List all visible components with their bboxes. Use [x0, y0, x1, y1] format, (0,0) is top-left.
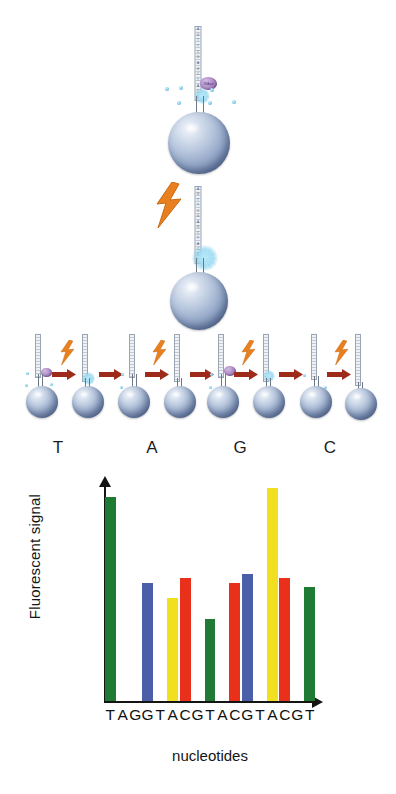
light-flash-bolt — [155, 182, 183, 228]
sequencing-bead — [345, 388, 377, 420]
fluor-dot — [121, 373, 124, 376]
fluor-dot — [165, 87, 169, 91]
bar-g-3 — [142, 583, 153, 701]
fluor-dot — [209, 386, 212, 389]
fluor-dot — [177, 101, 181, 105]
process-arrow — [234, 369, 258, 380]
bar-g-11 — [242, 574, 253, 701]
fluor-dot — [26, 372, 29, 375]
process-arrow — [52, 369, 76, 380]
process-arrow — [145, 369, 169, 380]
cycle-label-t: T — [48, 438, 68, 458]
fluor-dot — [50, 383, 53, 386]
cycle-label-a: A — [142, 438, 162, 458]
bar-a-5 — [167, 598, 178, 701]
fluor-dot — [232, 100, 236, 104]
x-tick-4: T — [154, 704, 166, 726]
x-tick-3: G — [141, 704, 153, 726]
spark-rays — [263, 370, 275, 382]
pyrogram-chart: Fluorescent signal TAGGTACGTACGTACGT nuc… — [0, 470, 396, 794]
x-tick-14: C — [279, 704, 291, 726]
fluor-dot — [210, 88, 214, 92]
x-tick-6: C — [179, 704, 191, 726]
polymerase-label: DNA pol — [204, 82, 214, 85]
fluorescent-burst — [263, 370, 275, 382]
cycle-label-g: G — [230, 438, 250, 458]
sequencing-bead — [207, 386, 239, 418]
light-flash-bolt — [60, 340, 75, 365]
fluor-dot — [179, 86, 183, 90]
process-arrow — [99, 369, 123, 380]
x-tick-15: G — [291, 704, 303, 726]
x-tick-11: G — [241, 704, 253, 726]
bar-t-16 — [304, 587, 315, 701]
fluor-dot — [210, 373, 213, 376]
fluor-dot — [303, 374, 306, 377]
x-tick-7: G — [191, 704, 203, 726]
y-axis-label: Fluorescent signal — [26, 482, 43, 632]
bar-a-13 — [267, 488, 278, 701]
sequencing-bead-mid — [170, 272, 228, 330]
process-arrow — [327, 369, 351, 380]
x-tick-13: A — [266, 704, 278, 726]
figure-canvas: AGTTCG AGCTACA DNA pol — [0, 0, 396, 794]
dna-strand-after — [355, 334, 361, 386]
process-arrow — [279, 369, 303, 380]
bar-t-0 — [105, 497, 116, 701]
x-tick-16: T — [304, 704, 316, 726]
sequencing-bead-top — [168, 112, 230, 174]
sequencing-bead — [164, 386, 196, 418]
x-tick-10: C — [229, 704, 241, 726]
x-tick-2: G — [129, 704, 141, 726]
sequencing-bead — [300, 386, 332, 418]
bar-t-8 — [205, 619, 216, 701]
x-tick-9: A — [216, 704, 228, 726]
dna-strand-after — [174, 334, 180, 382]
sequencing-bead — [72, 386, 104, 418]
sequencing-bead — [118, 386, 150, 418]
sequencing-bead — [26, 386, 58, 418]
light-flash-bolt — [241, 340, 256, 365]
cycle-label-c: C — [320, 438, 340, 458]
fluor-dot — [120, 386, 123, 389]
bar-c-6 — [180, 578, 191, 701]
dna-strand-before — [129, 334, 135, 378]
x-axis-line — [104, 701, 316, 703]
x-tick-8: T — [204, 704, 216, 726]
x-tick-5: A — [166, 704, 178, 726]
x-tick-0: T — [104, 704, 116, 726]
x-axis-tick-labels: TAGGTACGTACGTACGT — [104, 704, 316, 726]
x-axis-label: nucleotides — [104, 747, 316, 764]
bar-series — [104, 486, 316, 701]
light-flash-bolt — [152, 340, 167, 365]
dna-strand-before — [311, 334, 317, 380]
bar-c-14 — [279, 578, 290, 701]
x-tick-1: A — [116, 704, 128, 726]
bar-c-10 — [229, 583, 240, 701]
fluor-dot — [25, 384, 28, 387]
sequencing-bead — [253, 386, 285, 418]
light-flash-bolt — [334, 340, 349, 365]
x-tick-12: T — [254, 704, 266, 726]
